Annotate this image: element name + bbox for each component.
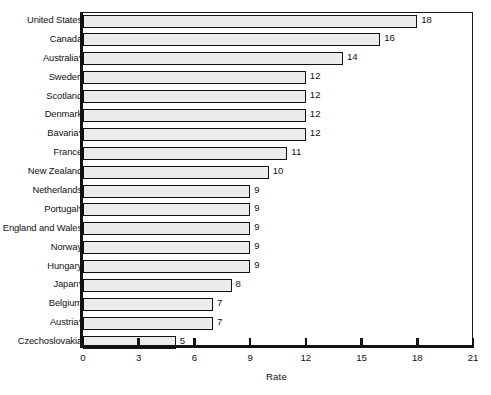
bar-row: Japan*8: [0, 276, 491, 295]
bar-fill: [83, 317, 213, 330]
bar-fill: [83, 15, 417, 28]
bar: [83, 147, 287, 160]
bar-row: Hungary9: [0, 258, 491, 277]
bar-row: Netherlands9: [0, 182, 491, 201]
bar-row: France11: [0, 144, 491, 163]
bar-value-label: 18: [421, 13, 432, 26]
x-axis-tick-label: 9: [247, 352, 252, 364]
x-axis-tick: [249, 338, 252, 346]
bar: [83, 241, 250, 254]
bar-chart: United States18Canada16Australia*14Swede…: [0, 0, 491, 395]
category-label: Netherlands: [0, 183, 82, 196]
bar-fill: [83, 203, 250, 216]
x-axis-tick-label: 21: [468, 352, 479, 364]
bar: [83, 279, 232, 292]
bar: [83, 185, 250, 198]
bar-value-label: 11: [291, 145, 301, 158]
bar-fill: [83, 128, 306, 141]
bar-row: Australia*14: [0, 50, 491, 69]
x-axis-title-label: Rate: [266, 371, 287, 382]
bar: [83, 298, 213, 311]
bar-fill: [83, 298, 213, 311]
category-label: Hungary: [0, 259, 82, 272]
category-label: Canada: [0, 32, 82, 45]
category-label: New Zealand: [0, 164, 82, 177]
bar: [83, 52, 343, 65]
bar: [83, 33, 380, 46]
bar-value-label: 9: [254, 220, 259, 233]
bar-fill: [83, 90, 306, 103]
bar-value-label: 7: [217, 296, 222, 309]
category-label: Austria*: [0, 315, 82, 328]
bar-value-label: 9: [254, 183, 259, 196]
bar-value-label: 9: [254, 201, 259, 214]
bar: [83, 222, 250, 235]
bar-fill: [83, 33, 380, 46]
bar-fill: [83, 185, 250, 198]
bar-row: United States18: [0, 12, 491, 31]
bar-fill: [83, 71, 306, 84]
x-axis-tick: [305, 338, 308, 346]
bar-value-label: 8: [236, 277, 241, 290]
x-axis-tick-label: 0: [80, 352, 85, 364]
x-axis-tick-label: 12: [301, 352, 312, 364]
bar-row: Austria*7: [0, 314, 491, 333]
bar-row: Scotland12: [0, 88, 491, 107]
bar-value-label: 10: [273, 164, 284, 177]
bar-row: Sweden12: [0, 69, 491, 88]
category-label: England and Wales: [0, 221, 82, 234]
bar-value-label: 7: [217, 315, 222, 328]
bar-fill: [83, 241, 250, 254]
x-axis-tick: [360, 338, 363, 346]
bar-row: Bavaria*12: [0, 125, 491, 144]
bar-value-label: 16: [384, 31, 395, 44]
bar-fill: [83, 109, 306, 122]
bar: [83, 166, 269, 179]
x-axis-tick: [416, 338, 419, 346]
bar-fill: [83, 147, 287, 160]
bar-fill: [83, 279, 232, 292]
bar-value-label: 12: [310, 107, 321, 120]
bar: [83, 71, 306, 84]
category-label: Norway: [0, 240, 82, 253]
bar: [83, 260, 250, 273]
bar-row: Portugal*9: [0, 201, 491, 220]
bar-row: New Zealand10: [0, 163, 491, 182]
category-label: France: [0, 145, 82, 158]
category-label: Australia*: [0, 51, 82, 64]
bar: [83, 109, 306, 122]
bar-row: Norway9: [0, 239, 491, 258]
category-label: Bavaria*: [0, 126, 82, 139]
category-label: Denmark: [0, 107, 82, 120]
bar-value-label: 12: [310, 88, 321, 101]
category-label: Japan*: [0, 277, 82, 290]
x-axis-tick: [82, 338, 85, 346]
x-axis-tick-label: 3: [136, 352, 141, 364]
bar: [83, 317, 213, 330]
x-axis-tick-label: 15: [356, 352, 367, 364]
x-axis-tick-label: 6: [192, 352, 197, 364]
bar-fill: [83, 166, 269, 179]
bar-row: Canada16: [0, 31, 491, 50]
bar: [83, 90, 306, 103]
category-label: Portugal*: [0, 202, 82, 215]
x-axis-tick-label: 18: [412, 352, 423, 364]
x-axis-tick: [193, 338, 196, 346]
bar-row: Belgium7: [0, 295, 491, 314]
category-label: Belgium: [0, 296, 82, 309]
category-label: Czechoslovakia: [0, 334, 82, 347]
bar: [83, 128, 306, 141]
bar-fill: [83, 222, 250, 235]
x-axis-title: Rate: [0, 371, 491, 382]
bar-fill: [83, 52, 343, 65]
bar-row: England and Wales9: [0, 220, 491, 239]
bar-value-label: 9: [254, 239, 259, 252]
x-axis-tick: [137, 338, 140, 346]
bar-row: Denmark12: [0, 106, 491, 125]
category-label: United States: [0, 13, 82, 26]
bar-value-label: 9: [254, 258, 259, 271]
bar-value-label: 12: [310, 126, 321, 139]
bar: [83, 203, 250, 216]
x-axis-tick: [472, 338, 475, 346]
bar-rows: United States18Canada16Australia*14Swede…: [0, 12, 491, 352]
